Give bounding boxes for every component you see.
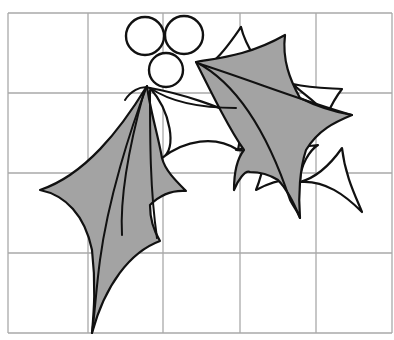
berry-bottom: [149, 53, 183, 87]
holly-illustration: [0, 0, 394, 340]
berry-right: [165, 16, 203, 54]
berry-left: [126, 17, 164, 55]
